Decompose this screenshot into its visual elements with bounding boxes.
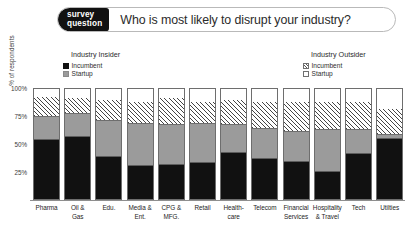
segment-startup_insider — [96, 121, 121, 157]
bar-tech[interactable] — [345, 88, 372, 200]
legend-outsider-startup-label: Startup — [312, 69, 333, 79]
x-label-pharma: Pharma — [30, 204, 63, 213]
x-label-financial-services: FinancialServices — [280, 204, 313, 222]
x-label-utilties: Utilties — [373, 204, 406, 213]
segment-incumbent_insider — [346, 154, 371, 199]
legend-item-insider-startup: Startup — [63, 70, 120, 78]
segment-startup_insider — [221, 125, 246, 153]
segment-startup_insider — [190, 124, 215, 163]
legend-item-outsider-startup: Startup — [303, 70, 366, 78]
segment-incumbent_insider — [190, 163, 215, 199]
bar-telecom[interactable] — [251, 88, 278, 200]
x-label-line: Gas — [61, 213, 94, 222]
segment-incumbent_outsider — [315, 102, 340, 130]
segment-startup_insider — [252, 129, 277, 160]
bar-health-care[interactable] — [220, 88, 247, 200]
segment-startup_outsider — [34, 89, 59, 97]
survey-question-text: Who is most likely to disrupt your indus… — [109, 8, 395, 31]
segment-startup_outsider — [252, 89, 277, 102]
x-label-edu: Edu. — [92, 204, 125, 213]
x-label-line: Financial — [280, 204, 313, 213]
bar-financial-services[interactable] — [283, 88, 310, 200]
bar-pharma[interactable] — [33, 88, 60, 200]
segment-startup_insider — [159, 125, 184, 165]
segment-incumbent_outsider — [34, 97, 59, 117]
segment-incumbent_insider — [96, 157, 121, 199]
swatch-diagonal-hatch-icon — [303, 63, 309, 69]
segment-startup_insider — [284, 132, 309, 162]
legend-industry-insider: Industry Insider Incumbent Startup — [63, 50, 120, 78]
bar-retail[interactable] — [189, 88, 216, 200]
x-label-line: Oil & — [61, 204, 94, 213]
x-label-line: Health- — [217, 204, 250, 213]
segment-incumbent_insider — [377, 139, 402, 199]
x-label-line: Tech — [342, 204, 375, 213]
x-label-line: Utilties — [373, 204, 406, 213]
x-label-line: Media & — [124, 204, 157, 213]
x-label-line: MFG. — [155, 213, 188, 222]
segment-incumbent_insider — [128, 166, 153, 199]
segment-incumbent_insider — [65, 137, 90, 199]
legend-insider-title: Industry Insider — [63, 50, 120, 61]
segment-startup_outsider — [65, 89, 90, 98]
x-label-line: Retail — [186, 204, 219, 213]
badge-line-2: question — [67, 20, 102, 28]
segment-startup_insider — [128, 124, 153, 166]
segment-startup_insider — [346, 130, 371, 154]
segment-incumbent_insider — [284, 162, 309, 199]
segment-startup_outsider — [315, 89, 340, 102]
segment-incumbent_insider — [221, 153, 246, 199]
segment-startup_outsider — [284, 89, 309, 102]
x-label-media-ent: Media &Ent. — [124, 204, 157, 222]
x-label-telecom: Telecom — [248, 204, 281, 213]
segment-startup_outsider — [377, 89, 402, 109]
segment-incumbent_outsider — [346, 102, 371, 130]
swatch-solid-gray-icon — [63, 71, 69, 77]
segment-incumbent_outsider — [284, 102, 309, 132]
segment-incumbent_insider — [252, 159, 277, 199]
stacked-bar-chart-plot — [33, 88, 403, 200]
y-axis-ticks: 25%50%75%100% — [0, 88, 30, 200]
segment-incumbent_outsider — [159, 98, 184, 126]
segment-startup_outsider — [221, 89, 246, 100]
segment-incumbent_outsider — [128, 102, 153, 124]
x-label-retail: Retail — [186, 204, 219, 213]
bar-media-ent[interactable] — [127, 88, 154, 200]
bar-cpg-mfg[interactable] — [158, 88, 185, 200]
x-label-line: CPG & — [155, 204, 188, 213]
bar-hospitality-travel[interactable] — [314, 88, 341, 200]
x-label-line: Hospitality — [311, 204, 344, 213]
segment-startup_outsider — [346, 89, 371, 102]
x-label-line: Services — [280, 213, 313, 222]
segment-startup_insider — [65, 114, 90, 137]
y-tick-50: 50% — [14, 141, 27, 148]
x-label-line: Edu. — [92, 204, 125, 213]
x-label-cpg-mfg: CPG &MFG. — [155, 204, 188, 222]
x-axis-baseline — [30, 200, 405, 201]
legend-outsider-title: Industry Outsider — [303, 50, 366, 61]
bar-utilties[interactable] — [376, 88, 403, 200]
x-label-line: Telecom — [248, 204, 281, 213]
legend-industry-outsider: Industry Outsider Incumbent Startup — [303, 50, 366, 78]
legend-insider-startup-label: Startup — [72, 69, 93, 79]
segment-incumbent_insider — [159, 165, 184, 199]
segment-startup_outsider — [128, 89, 153, 102]
swatch-solid-white-icon — [303, 71, 309, 77]
segment-incumbent_outsider — [252, 102, 277, 128]
x-label-tech: Tech — [342, 204, 375, 213]
y-tick-100: 100% — [11, 85, 27, 92]
bar-oil-gas[interactable] — [64, 88, 91, 200]
segment-incumbent_insider — [315, 172, 340, 200]
bar-edu[interactable] — [95, 88, 122, 200]
y-tick-25: 25% — [14, 169, 27, 176]
x-label-line: & Travel — [311, 213, 344, 222]
survey-question-banner: survey question Who is most likely to di… — [57, 7, 396, 32]
survey-question-badge: survey question — [58, 8, 109, 31]
x-label-hospitality-travel: Hospitality& Travel — [311, 204, 344, 222]
segment-incumbent_outsider — [377, 109, 402, 135]
x-label-line: Pharma — [30, 204, 63, 213]
x-label-oil-gas: Oil &Gas — [61, 204, 94, 222]
segment-incumbent_outsider — [190, 102, 215, 124]
x-label-line: Ent. — [124, 213, 157, 222]
segment-incumbent_insider — [34, 140, 59, 199]
